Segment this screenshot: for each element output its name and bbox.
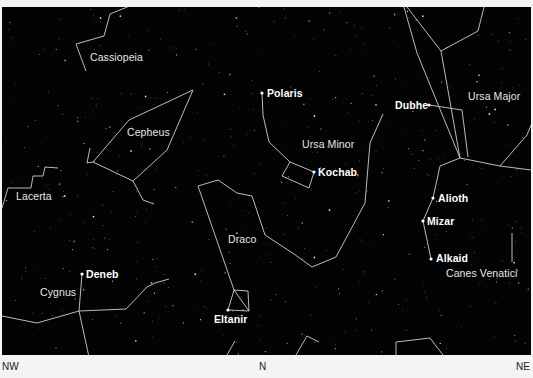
label-kochab: Kochab <box>318 167 357 178</box>
label-ursa-major: Ursa Major <box>468 91 520 102</box>
star-mizar <box>421 219 424 222</box>
star-eltanir <box>226 308 229 311</box>
label-polaris: Polaris <box>267 88 303 99</box>
star-alioth <box>431 196 434 199</box>
cygnus-lines <box>79 274 89 357</box>
label-alkaid: Alkaid <box>436 253 468 264</box>
draco-lines <box>198 114 383 311</box>
label-mizar: Mizar <box>427 216 454 227</box>
named-stars <box>80 91 434 311</box>
star-kochab <box>312 170 315 173</box>
label-cassiopeia: Cassiopeia <box>90 52 143 63</box>
label-cepheus: Cepheus <box>127 127 170 138</box>
star-alkaid <box>429 257 432 260</box>
direction-nw: NW <box>2 362 19 372</box>
label-dubhe: Dubhe <box>395 100 428 111</box>
direction-n: N <box>259 362 266 372</box>
constellation-lines <box>0 0 533 378</box>
label-lacerta: Lacerta <box>16 191 52 202</box>
direction-ne: NE <box>516 362 530 372</box>
label-deneb: Deneb <box>86 269 119 280</box>
star-deneb <box>80 272 83 275</box>
label-draco: Draco <box>228 234 257 245</box>
star-polaris <box>260 91 263 94</box>
label-eltanir: Eltanir <box>214 314 247 325</box>
label-canes-venatici: Canes Venatici <box>446 268 517 279</box>
label-cygnus: Cygnus <box>40 287 76 298</box>
label-alioth: Alioth <box>438 193 468 204</box>
label-ursa-minor: Ursa Minor <box>302 139 354 150</box>
